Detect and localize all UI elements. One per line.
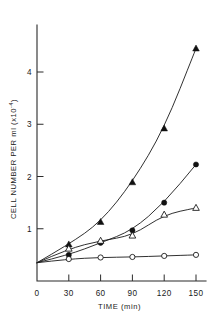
- data-point-open-circle: [193, 252, 198, 257]
- data-point-filled-triangle: [193, 45, 200, 51]
- y-tick-label: 1: [27, 225, 32, 234]
- data-point-open-triangle: [161, 211, 168, 217]
- data-point-filled-circle: [193, 162, 198, 167]
- figure-container: 12340306090120150TIME (min)CELL NUMBER P…: [0, 0, 223, 326]
- chart-axes: [37, 25, 206, 281]
- x-tick-label: 150: [189, 289, 204, 298]
- y-tick-label: 3: [27, 120, 32, 129]
- axis-spines: [37, 25, 206, 281]
- chart-series: [37, 45, 199, 263]
- data-point-filled-triangle: [129, 179, 136, 185]
- data-point-open-circle: [130, 254, 135, 259]
- x-axis-title: TIME (min): [98, 302, 141, 311]
- x-tick-label: 120: [157, 289, 172, 298]
- series-line: [37, 48, 196, 262]
- x-tick-label: 30: [64, 289, 74, 298]
- data-point-filled-circle: [162, 200, 167, 205]
- line-chart: 12340306090120150TIME (min)CELL NUMBER P…: [0, 0, 223, 326]
- y-axis-title: CELL NUMBER PER ml (x10-4): [8, 99, 18, 219]
- y-tick-label: 2: [27, 173, 32, 182]
- data-point-open-circle: [162, 253, 167, 258]
- x-tick-label: 0: [35, 289, 40, 298]
- filled-triangle-series: [37, 45, 199, 263]
- data-point-filled-triangle: [161, 125, 168, 131]
- data-point-open-circle: [98, 255, 103, 260]
- open-circle-series: [37, 252, 199, 262]
- y-tick-label: 4: [27, 68, 32, 77]
- x-tick-label: 60: [96, 289, 106, 298]
- series-line: [37, 208, 196, 263]
- open-triangle-series: [37, 204, 199, 262]
- data-point-open-circle: [66, 256, 71, 261]
- data-point-open-triangle: [193, 204, 200, 210]
- x-tick-label: 90: [127, 289, 137, 298]
